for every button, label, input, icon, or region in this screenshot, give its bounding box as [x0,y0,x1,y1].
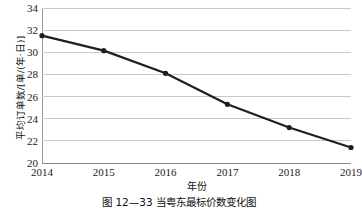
x-axis-tick-labels: 201420152016201720182019 [42,165,351,180]
data-point-2014 [39,33,44,38]
x-tick-label-2019: 2019 [340,165,362,179]
data-point-2019 [348,145,353,150]
y-tick-label-34: 34 [27,3,38,14]
x-tick-label-2018: 2018 [278,165,300,179]
plot-area [42,8,351,163]
data-point-2018 [287,125,292,130]
x-tick-label-2016: 2016 [155,165,177,179]
series-line-chart [42,8,351,163]
data-point-2015 [101,48,106,53]
x-axis-title: 年份 [42,181,351,193]
data-point-2016 [163,71,168,76]
y-tick-label-32: 32 [27,25,38,36]
x-tick-label-2017: 2017 [216,165,238,179]
figure-caption: 图 12—33 当粤东最标价数变化图 [0,196,358,209]
y-tick-label-22: 22 [27,135,38,146]
data-point-2017 [225,102,230,107]
x-tick-label-2014: 2014 [31,165,53,179]
y-tick-label-28: 28 [27,69,38,80]
y-tick-label-30: 30 [27,47,38,58]
x-tick-label-2015: 2015 [93,165,115,179]
y-tick-label-24: 24 [27,113,38,124]
data-line [42,36,351,148]
y-axis-tick-labels: 2022242628303234 [14,8,40,163]
y-tick-label-26: 26 [27,91,38,102]
